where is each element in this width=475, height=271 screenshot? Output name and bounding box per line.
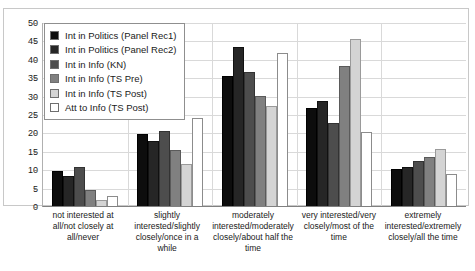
bar bbox=[233, 47, 244, 206]
bar bbox=[424, 157, 435, 206]
legend-item: Int in Politics (Panel Rec1) bbox=[50, 28, 176, 43]
bar-group bbox=[381, 23, 466, 206]
bar bbox=[350, 39, 361, 206]
y-axis-tick-mark bbox=[34, 60, 38, 61]
bar bbox=[255, 96, 266, 206]
bar-group bbox=[297, 23, 382, 206]
legend-swatch-icon bbox=[50, 45, 59, 54]
legend-item: Int in Info (TS Post) bbox=[50, 86, 176, 101]
legend-label: Int in Politics (Panel Rec2) bbox=[65, 44, 176, 55]
legend-swatch-icon bbox=[50, 103, 59, 112]
y-axis-tick-mark bbox=[34, 97, 38, 98]
legend-item: Att to Info (TS Post) bbox=[50, 101, 176, 116]
chart-legend: Int in Politics (Panel Rec1)Int in Polit… bbox=[44, 23, 185, 120]
y-axis-tick-mark bbox=[34, 23, 38, 24]
bar bbox=[107, 196, 118, 206]
x-axis-category-label: moderately interested/moderately closely… bbox=[209, 210, 297, 254]
y-axis-tick-mark bbox=[34, 41, 38, 42]
legend-label: Int in Info (TS Post) bbox=[65, 88, 147, 99]
bar bbox=[435, 149, 446, 206]
bar bbox=[170, 150, 181, 206]
bar bbox=[181, 164, 192, 206]
bar bbox=[96, 200, 107, 206]
bar bbox=[361, 132, 372, 206]
bar bbox=[192, 118, 203, 206]
bar bbox=[222, 76, 233, 206]
legend-label: Int in Info (KN) bbox=[65, 59, 126, 70]
y-axis-tick-mark bbox=[34, 152, 38, 153]
legend-swatch-icon bbox=[50, 60, 59, 69]
bar bbox=[266, 106, 277, 206]
bar bbox=[159, 131, 170, 206]
bar bbox=[148, 141, 159, 207]
x-axis-category-label: slightly interested/slightly closely/onc… bbox=[125, 210, 209, 254]
bar bbox=[446, 174, 457, 206]
bar bbox=[277, 53, 288, 206]
bar bbox=[328, 123, 339, 206]
y-axis-tick-mark bbox=[34, 207, 38, 208]
bar bbox=[339, 66, 350, 206]
bar bbox=[52, 171, 63, 206]
bar bbox=[413, 161, 424, 206]
bar bbox=[63, 176, 74, 206]
bar bbox=[85, 190, 96, 206]
bar bbox=[391, 169, 402, 206]
bar-chart: 05101520253035404550 Int in Politics (Pa… bbox=[0, 0, 475, 271]
legend-swatch-icon bbox=[50, 74, 59, 83]
bar-group bbox=[212, 23, 297, 206]
bar bbox=[137, 134, 148, 206]
legend-label: Att to Info (TS Post) bbox=[65, 102, 148, 113]
y-axis-tick-mark bbox=[34, 170, 38, 171]
bars bbox=[306, 23, 372, 206]
legend-swatch-icon bbox=[50, 31, 59, 40]
y-axis-tick-mark bbox=[34, 189, 38, 190]
chart-plot-frame: 05101520253035404550 Int in Politics (Pa… bbox=[3, 8, 469, 206]
legend-item: Int in Info (TS Pre) bbox=[50, 72, 176, 87]
legend-swatch-icon bbox=[50, 89, 59, 98]
legend-label: Int in Info (TS Pre) bbox=[65, 73, 143, 84]
bar bbox=[306, 108, 317, 206]
legend-item: Int in Politics (Panel Rec2) bbox=[50, 43, 176, 58]
x-axis-labels: not interested at all/not closely at all… bbox=[41, 210, 465, 254]
y-axis-tick-mark bbox=[34, 115, 38, 116]
x-axis-category-label: not interested at all/not closely at all… bbox=[41, 210, 125, 254]
x-axis-category-label: very interested/very closely/most of the… bbox=[297, 210, 381, 254]
bar bbox=[402, 167, 413, 206]
bars bbox=[222, 23, 288, 206]
legend-label: Int in Politics (Panel Rec1) bbox=[65, 30, 176, 41]
legend-item: Int in Info (KN) bbox=[50, 57, 176, 72]
bar bbox=[74, 167, 85, 206]
y-axis: 05101520253035404550 bbox=[4, 23, 38, 207]
y-axis-tick-mark bbox=[34, 133, 38, 134]
y-axis-tick-mark bbox=[34, 78, 38, 79]
bar bbox=[317, 101, 328, 206]
x-axis-category-label: extremely interested/extremely closely/a… bbox=[381, 210, 465, 254]
bars bbox=[391, 23, 457, 206]
bar bbox=[244, 72, 255, 206]
